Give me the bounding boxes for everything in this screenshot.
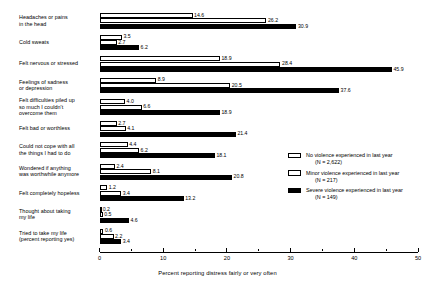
legend-swatch: [288, 153, 301, 159]
x-tick-major: [226, 248, 227, 252]
bar-value-label: 4.0: [127, 99, 134, 104]
bar-value-label: 20.8: [234, 174, 244, 179]
legend-swatch: [288, 170, 301, 176]
category-label: Feelings of sadness or depression: [19, 79, 97, 92]
category-label: Could not cope with all the things I had…: [19, 143, 97, 156]
x-tick-major: [290, 248, 291, 252]
category-label: Wondered if anything was worthwhile anym…: [19, 165, 97, 178]
legend-label: Severe violence experienced in last year: [306, 187, 403, 194]
bar-value-label: 45.9: [393, 67, 403, 72]
bar-value-label: 13.2: [185, 196, 195, 201]
legend-sample-size: (N = 149): [315, 194, 338, 201]
x-axis-line: [100, 252, 419, 253]
bar-value-label: 0.6: [105, 228, 112, 233]
bar: [100, 148, 139, 153]
bar-value-label: 8.9: [158, 77, 165, 82]
x-tick-major: [354, 248, 355, 252]
bar-value-label: 26.2: [268, 18, 278, 23]
bar: [100, 40, 117, 45]
bar: [100, 83, 231, 88]
bar: [100, 218, 129, 223]
x-tick-label: 30: [279, 256, 303, 262]
bar: [100, 88, 340, 93]
bar-value-label: 18.9: [221, 56, 231, 61]
bar-value-label: 4.6: [130, 218, 137, 223]
x-tick-minor: [195, 249, 196, 251]
bar: [100, 239, 122, 244]
x-tick-minor: [258, 249, 259, 251]
x-tick-minor: [386, 249, 387, 251]
bar: [100, 169, 152, 174]
category-label: Felt completely hopeless: [19, 190, 97, 196]
bar-value-label: 4.4: [129, 142, 136, 147]
x-tick-label: 50: [406, 256, 430, 262]
bar: [100, 207, 102, 212]
legend-swatch: [288, 188, 301, 194]
bar-value-label: 8.1: [153, 169, 160, 174]
bar: [100, 62, 281, 67]
bar-value-label: 6.2: [141, 45, 148, 50]
bar: [100, 67, 392, 72]
bar-value-label: 1.2: [109, 185, 116, 190]
bar: [100, 175, 232, 180]
bar: [100, 153, 215, 158]
x-tick-major: [163, 248, 164, 252]
bar-value-label: 37.6: [341, 88, 351, 93]
legend-label: Minor violence experienced in last year: [306, 170, 399, 177]
category-label: Cold sweats: [19, 39, 97, 45]
bar-value-label: 4.1: [127, 126, 134, 131]
bar: [100, 191, 122, 196]
bar-value-label: 0.5: [104, 212, 111, 217]
legend-sample-size: (N = 2,622): [315, 159, 342, 166]
bar: [100, 18, 267, 23]
bar: [100, 105, 142, 110]
x-tick-label: 20: [215, 256, 239, 262]
x-axis-title: Percent reporting distress fairly or ver…: [0, 270, 435, 276]
bar-value-label: 3.4: [123, 191, 130, 196]
bar-chart: Headaches or pains in the headCold sweat…: [0, 0, 435, 292]
bar: [100, 196, 184, 201]
bar: [100, 45, 139, 50]
x-tick-major: [99, 248, 100, 252]
bar: [100, 132, 236, 137]
bar-value-label: 30.9: [298, 24, 308, 29]
bar-value-label: 21.4: [237, 131, 247, 136]
bar-value-label: 2.7: [118, 40, 125, 45]
bar-value-label: 18.9: [221, 110, 231, 115]
bar-value-label: 2.7: [118, 121, 125, 126]
bar: [100, 13, 193, 18]
bar: [100, 99, 125, 104]
category-label: Tried to take my life (percent reporting…: [19, 230, 97, 243]
bar: [100, 110, 220, 115]
bar-value-label: 2.2: [115, 234, 122, 239]
bar-value-label: 6.2: [141, 148, 148, 153]
bar-value-label: 20.5: [232, 83, 242, 88]
category-label: Felt nervous or stressed: [19, 60, 97, 66]
bar: [100, 56, 220, 61]
bar-value-label: 3.4: [123, 239, 130, 244]
bar: [100, 164, 115, 169]
bar: [100, 142, 128, 147]
bar-value-label: 18.1: [216, 153, 226, 158]
bar: [100, 126, 126, 131]
x-tick-label: 10: [151, 256, 175, 262]
bar: [100, 212, 103, 217]
bar: [100, 78, 157, 83]
bar-value-label: 28.4: [282, 61, 292, 66]
x-tick-minor: [131, 249, 132, 251]
bar-value-label: 2.4: [116, 164, 123, 169]
legend-label: No violence experienced in last year: [306, 152, 393, 159]
category-label: Felt difficulties piled up so much I cou…: [19, 97, 97, 116]
bar-value-label: 14.6: [194, 13, 204, 18]
category-label: Felt bad or worthless: [19, 125, 97, 131]
category-label: Headaches or pains in the head: [19, 14, 97, 27]
bar: [100, 229, 104, 234]
bar-value-label: 6.6: [143, 104, 150, 109]
bar: [100, 185, 108, 190]
x-tick-label: 0: [88, 256, 112, 262]
category-label: Thought about taking my life: [19, 208, 97, 221]
bar: [100, 121, 117, 126]
legend-sample-size: (N = 217): [315, 177, 338, 184]
x-tick-major: [418, 248, 419, 252]
bar: [100, 234, 114, 239]
